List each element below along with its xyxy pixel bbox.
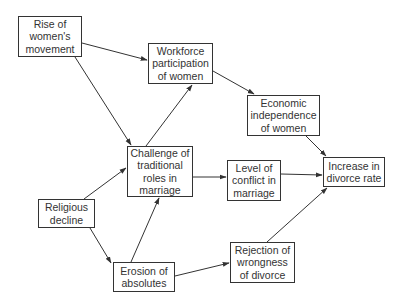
- edge-rise-to-workforce: [82, 43, 147, 60]
- node-label: Rejection of wrongness of divorce: [235, 244, 290, 282]
- node-label: Increase in divorce rate: [327, 160, 382, 185]
- node-religious-decline: Religious decline: [38, 199, 95, 228]
- node-label: Workforce participation of women: [152, 45, 209, 83]
- edge-religious-to-erosion: [90, 228, 111, 263]
- node-workforce-participation: Workforce participation of women: [148, 43, 213, 84]
- node-label: Religious decline: [45, 201, 88, 226]
- node-challenge-traditional-roles: Challenge of traditional roles in marria…: [127, 146, 193, 197]
- edge-erosion-to-rejection: [175, 263, 229, 276]
- node-economic-independence: Economic independence of women: [247, 95, 320, 136]
- node-label: Erosion of absolutes: [120, 265, 167, 290]
- node-label: Economic independence of women: [251, 97, 317, 135]
- node-label: Level of conflict in marriage: [232, 162, 276, 200]
- edge-challenge-to-workforce: [146, 85, 192, 146]
- edge-rise-to-challenge: [75, 57, 131, 145]
- node-increase-divorce-rate: Increase in divorce rate: [323, 157, 385, 187]
- node-label: Challenge of traditional roles in marria…: [131, 147, 190, 197]
- node-level-of-conflict: Level of conflict in marriage: [227, 160, 281, 201]
- edge-workforce-to-economic: [213, 71, 254, 94]
- node-label: Rise of women's movement: [25, 18, 74, 56]
- diagram-canvas: Rise of women's movement Workforce parti…: [0, 0, 403, 308]
- node-rejection-wrongness-divorce: Rejection of wrongness of divorce: [230, 242, 295, 283]
- node-erosion-of-absolutes: Erosion of absolutes: [113, 262, 175, 292]
- node-rise-of-womens-movement: Rise of women's movement: [18, 16, 82, 57]
- edge-religious-to-challenge: [84, 168, 126, 199]
- edge-conflict-to-divorce: [281, 174, 322, 175]
- edge-erosion-to-challenge: [131, 198, 159, 262]
- edge-economic-to-divorce: [306, 136, 326, 156]
